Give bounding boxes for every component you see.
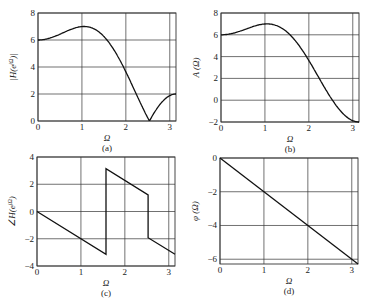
data-line [38,27,176,121]
x-axis-label: Ω [287,134,294,144]
y-tick-label: 2 [31,89,36,99]
y-tick-label: 6 [214,30,219,40]
y-tick-label: 0 [30,207,35,217]
y-tick-label: 6 [31,35,36,45]
x-axis-label: Ω [103,278,110,288]
y-tick-label: −4 [207,220,217,230]
y-tick-label: 4 [30,152,35,162]
x-tick-label: 1 [262,265,267,275]
panel-caption: (d) [284,286,295,296]
y-tick-label: 8 [214,8,219,18]
chart-panel-c: 0123−4−2024Ω(c)∠H(ejΩ) [7,152,175,298]
panel-caption: (c) [101,288,111,298]
figure: 012302468Ω(a)|H(ejΩ)|0123−202468Ω(b)A (Ω… [0,0,372,304]
y-tick-label: 0 [31,116,36,126]
data-line [220,158,358,264]
chart-panel-d: 0123−6−4−20Ω(d)φ (Ω) [190,153,358,296]
grid [221,13,359,122]
x-tick-label: 3 [350,265,355,275]
panel-caption: (b) [285,144,296,154]
x-tick-label: 2 [307,123,312,133]
x-tick-label: 3 [167,267,172,277]
panel-caption: (a) [102,143,112,153]
data-line [221,24,359,122]
y-tick-label: 2 [214,73,219,83]
y-tick-label: −2 [207,187,217,197]
y-axis-label: A (Ω) [191,57,201,78]
x-tick-label: 0 [36,122,41,132]
x-tick-label: 0 [219,123,224,133]
y-tick-label: −4 [24,261,34,271]
y-axis-label: ∠H(ejΩ) [7,196,17,227]
y-tick-label: 0 [213,153,218,163]
chart-panel-b: 0123−202468Ω(b)A (Ω) [191,8,359,154]
x-tick-label: 1 [80,122,85,132]
y-axis-label: |H(ejΩ)| [8,53,18,80]
x-axis-label: Ω [104,133,111,143]
x-tick-label: 2 [306,265,311,275]
x-tick-label: 2 [124,122,129,132]
y-tick-label: 2 [30,179,35,189]
x-tick-label: 3 [351,123,356,133]
y-tick-label: 8 [31,8,36,18]
y-tick-label: 4 [31,62,36,72]
x-tick-label: 0 [35,267,40,277]
y-tick-label: 0 [214,95,219,105]
x-tick-label: 2 [123,267,128,277]
x-tick-label: 1 [79,267,84,277]
y-axis-label: φ (Ω) [190,201,200,221]
y-tick-label: −2 [24,234,34,244]
grid [38,13,176,121]
x-tick-label: 0 [218,265,223,275]
plot-frame [221,13,359,122]
x-tick-label: 1 [263,123,268,133]
y-tick-label: 4 [214,52,219,62]
y-tick-label: −2 [208,117,218,127]
x-axis-label: Ω [286,276,293,286]
chart-panel-a: 012302468Ω(a)|H(ejΩ)| [8,8,176,153]
y-tick-label: −6 [207,254,217,264]
x-tick-label: 3 [168,122,173,132]
